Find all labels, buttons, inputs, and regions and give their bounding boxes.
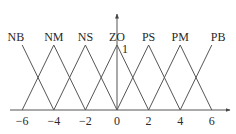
label-ps: PS (142, 30, 155, 44)
axes (10, 14, 230, 110)
membership-function-chart: NBNMNSZOPSPMPB −6−4−20246 1 (0, 0, 236, 134)
x-tick-label: 6 (209, 114, 215, 128)
triangle-ns (54, 45, 117, 110)
triangle-nm (22, 45, 85, 110)
label-pb: PB (211, 30, 226, 44)
x-tick-labels: −6−4−20246 (16, 114, 215, 128)
x-tick-label: 4 (177, 114, 183, 128)
x-tick-label: 2 (146, 114, 152, 128)
x-tick-label: −6 (16, 114, 29, 128)
y-peak-annotation: 1 (122, 42, 128, 56)
label-nm: NM (44, 30, 64, 44)
x-tick-label: −4 (47, 114, 60, 128)
set-labels: NBNMNSZOPSPMPB (8, 30, 226, 44)
x-tick-label: 0 (114, 114, 120, 128)
label-ns: NS (78, 30, 93, 44)
x-tick-label: −2 (79, 114, 92, 128)
label-pm: PM (172, 30, 190, 44)
triangle-pm (149, 45, 212, 110)
label-nb: NB (8, 30, 25, 44)
